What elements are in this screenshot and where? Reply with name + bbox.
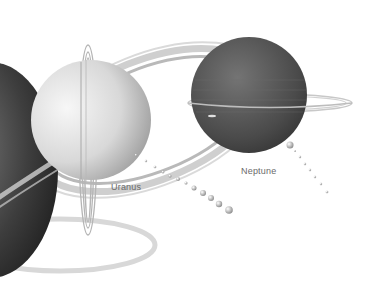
planets-artwork [0,0,374,281]
neptune-body [191,37,307,153]
neptune-moons [287,142,329,194]
planets-illustration: Uranus Neptune [0,0,374,281]
neptune-label: Neptune [241,166,276,176]
uranus-label: Uranus [111,182,141,192]
uranus-body [31,60,151,180]
